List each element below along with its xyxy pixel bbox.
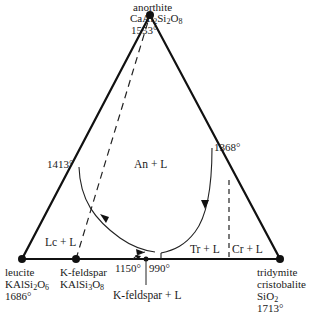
tridymite-label: tridymite <box>257 266 297 278</box>
arrow-icon <box>201 200 209 209</box>
leucite-label: leucite <box>5 266 34 278</box>
leucite-point <box>18 255 26 263</box>
silica-formula: SiO2 <box>257 290 278 302</box>
peritectic-temp: 1150° <box>115 262 141 274</box>
anorthite-temp: 1553° <box>131 24 157 36</box>
tridymite-field-label: Tr + L <box>190 243 220 255</box>
kfeldspar-point <box>72 255 80 263</box>
cristobalite-label: cristobalite <box>257 278 306 290</box>
silica-point <box>276 255 284 263</box>
right-edge-temp: 1368° <box>214 141 240 153</box>
silica-temp: 1713° <box>257 302 283 314</box>
kfeldspar-label: K-feldspar <box>60 266 107 278</box>
cristobalite-field-label: Cr + L <box>232 243 263 255</box>
anorthite-field-label: An + L <box>134 158 167 170</box>
kfeldspar-field-label: K-feldspar + L <box>113 289 181 301</box>
left-edge-temp: 1413° <box>47 158 73 170</box>
anorthite-formula: CaAl2Si2O8 <box>130 12 182 24</box>
leucite-formula: KAlSi2O6 <box>5 278 49 290</box>
leucite-field-label: Lc + L <box>45 236 76 248</box>
leucite-temp: 1686° <box>5 290 31 302</box>
kfeldspar-formula: KAlSi3O8 <box>60 278 104 290</box>
eutectic-temp: 990° <box>149 262 170 274</box>
triangle-outline <box>22 15 280 259</box>
